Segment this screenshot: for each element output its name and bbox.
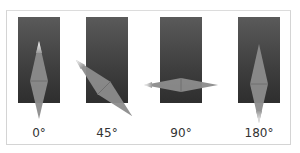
- label-0-degrees: 0°: [9, 126, 69, 140]
- diamond-0-icon: [30, 41, 48, 119]
- diamond-90-icon: [144, 78, 218, 92]
- label-90-degrees: 90°: [151, 126, 211, 140]
- label-180-degrees: 180°: [229, 126, 289, 140]
- label-45-degrees: 45°: [77, 126, 137, 140]
- diamond-180-icon: [250, 44, 268, 123]
- diamond-45-icon: [69, 53, 138, 122]
